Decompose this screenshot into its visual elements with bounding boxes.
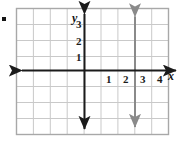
x-tick-3: 3 [140, 74, 146, 85]
x-axis-label: x [168, 70, 174, 82]
y-tick-3: 3 [76, 19, 82, 30]
x-tick-4: 4 [157, 74, 163, 85]
item-bullet-marker [2, 17, 6, 21]
y-tick-1: 1 [76, 52, 82, 63]
x-tick-1: 1 [106, 74, 112, 85]
x-tick-2: 2 [123, 74, 129, 85]
coordinate-plane-figure: y x 3 2 1 −1 −2 −3 −4 −3 −2 −1 1 2 3 4 [0, 0, 183, 146]
graph-canvas [0, 0, 183, 146]
y-tick-2: 2 [76, 36, 82, 47]
